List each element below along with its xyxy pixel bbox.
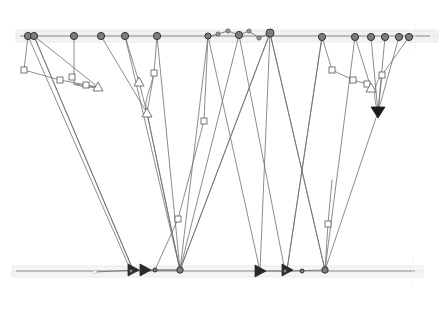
top-axis-node[interactable] xyxy=(97,32,104,39)
markers-layer xyxy=(21,67,385,277)
graph-edge xyxy=(371,37,378,112)
edges-layer xyxy=(24,33,409,272)
graph-long-edge xyxy=(180,35,239,270)
chain-node xyxy=(226,29,230,33)
square-marker xyxy=(175,216,181,222)
bottom-axis-node[interactable] xyxy=(177,267,183,273)
top-axis-node[interactable] xyxy=(30,32,37,39)
square-marker xyxy=(21,67,27,73)
bottom-axis-node[interactable] xyxy=(283,269,287,273)
graph-long-edge xyxy=(208,36,260,271)
graph-edge xyxy=(382,37,409,75)
curve-left xyxy=(146,73,154,113)
square-marker xyxy=(57,77,63,83)
square-marker xyxy=(350,77,356,83)
axes-layer xyxy=(12,24,438,284)
graph-edge xyxy=(28,36,131,271)
square-marker xyxy=(379,72,385,78)
graph-svg xyxy=(0,0,440,311)
graph-edge xyxy=(178,121,204,219)
top-axis-node[interactable] xyxy=(405,33,412,40)
graph-edge xyxy=(24,70,60,80)
bottom-axis-node[interactable] xyxy=(322,267,328,273)
top-axis-node[interactable] xyxy=(205,33,211,39)
graph-long-edge xyxy=(34,36,133,270)
graph-long-edge xyxy=(180,33,270,270)
triangle-marker xyxy=(142,108,152,117)
chain-node xyxy=(257,36,261,40)
top-axis-node[interactable] xyxy=(318,33,325,40)
top-axis-node[interactable] xyxy=(266,29,274,37)
graph-edge xyxy=(180,36,208,270)
graph-edge xyxy=(125,36,139,82)
chain-node xyxy=(216,32,220,36)
graph-edge xyxy=(204,36,208,121)
graph-edge xyxy=(239,35,285,271)
graph-edge xyxy=(60,80,86,85)
bottom-axis-node[interactable] xyxy=(153,268,157,272)
triangle-marker xyxy=(371,107,385,118)
bottom-axis-node[interactable] xyxy=(93,270,97,274)
bottom-axis-node[interactable] xyxy=(300,269,304,273)
square-marker xyxy=(151,70,157,76)
top-axis-node[interactable] xyxy=(351,33,358,40)
top-axis-node[interactable] xyxy=(367,33,374,40)
graph-edge xyxy=(34,36,98,87)
graph-edge xyxy=(157,36,180,270)
top-axis-node[interactable] xyxy=(381,33,388,40)
chain-node xyxy=(247,29,251,33)
graph-long-edge xyxy=(147,113,180,270)
square-marker xyxy=(325,221,331,227)
top-axis-node[interactable] xyxy=(235,31,242,38)
square-marker xyxy=(69,74,75,80)
bottom-axis-node[interactable] xyxy=(129,269,133,273)
top-axis-node[interactable] xyxy=(70,32,77,39)
square-marker xyxy=(83,82,89,88)
square-marker xyxy=(329,67,335,73)
square-marker xyxy=(201,118,207,124)
graph-edge xyxy=(355,37,371,88)
graph-edge xyxy=(325,112,378,270)
top-axis-node[interactable] xyxy=(153,32,160,39)
graph-edge xyxy=(378,75,382,112)
top-axis-node[interactable] xyxy=(121,32,128,39)
diagram-canvas xyxy=(0,0,440,311)
top-axis-node[interactable] xyxy=(395,33,402,40)
